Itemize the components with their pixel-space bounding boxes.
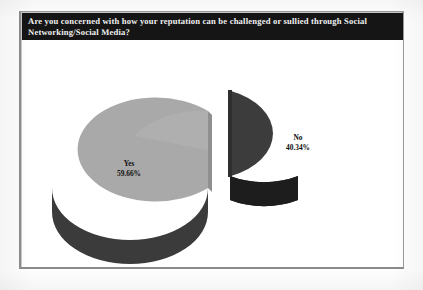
scanned-page: Are you concerned with how your reputati… xyxy=(0,0,423,290)
pie-slice-yes-cut-wall xyxy=(208,111,212,192)
pie-chart-svg: No 40.34% Yes 59.66% xyxy=(22,40,403,267)
pie-slice-no-rim xyxy=(230,176,298,206)
pie-label-yes-value: 59.66% xyxy=(117,169,141,178)
pie-chart-area: No 40.34% Yes 59.66% xyxy=(22,40,403,267)
report-frame: Are you concerned with how your reputati… xyxy=(19,11,404,269)
pie-slice-yes[interactable] xyxy=(52,98,212,265)
pie-slice-no-top xyxy=(231,91,273,176)
pie-slice-no-cut-wall xyxy=(228,90,232,177)
pie-label-no-name: No xyxy=(293,133,302,142)
question-header-bar: Are you concerned with how your reputati… xyxy=(22,13,403,40)
pie-label-no-value: 40.34% xyxy=(286,143,310,152)
question-title: Are you concerned with how your reputati… xyxy=(28,16,398,37)
pie-label-yes-name: Yes xyxy=(124,159,135,168)
